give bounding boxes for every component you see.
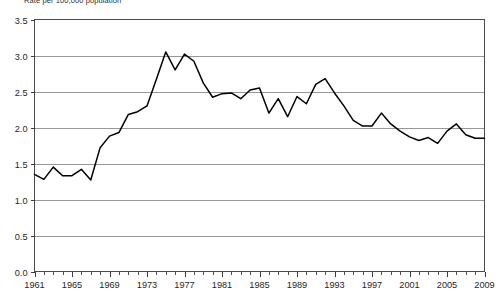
data-series-group bbox=[35, 52, 485, 180]
x-axis-label: 2005 bbox=[437, 280, 457, 290]
series-line-rate bbox=[35, 52, 485, 180]
x-axis-label: 1993 bbox=[324, 280, 344, 290]
y-axis-label: 1.5 bbox=[15, 160, 28, 170]
y-axis-label: 2.0 bbox=[15, 124, 28, 134]
y-axis-label: 0.0 bbox=[15, 268, 28, 278]
line-chart: Rate per 100,000 population 0.00.51.01.5… bbox=[0, 0, 496, 299]
x-axis-label: 1981 bbox=[212, 280, 232, 290]
x-axis-label: 1973 bbox=[137, 280, 157, 290]
x-axis-label: 1969 bbox=[99, 280, 119, 290]
x-axis-label: 2001 bbox=[399, 280, 419, 290]
x-axis-label: 1985 bbox=[249, 280, 269, 290]
y-axis-label: 0.5 bbox=[15, 232, 28, 242]
y-axis-ticks bbox=[31, 21, 35, 273]
x-axis-ticks bbox=[36, 272, 486, 277]
y-axis-label: 3.5 bbox=[15, 16, 28, 26]
x-axis-label: 1977 bbox=[174, 280, 194, 290]
chart-plot-area: 0.00.51.01.52.02.53.03.5 196119651969197… bbox=[0, 0, 496, 299]
x-axis-label: 2009 bbox=[474, 280, 494, 290]
y-axis-label: 1.0 bbox=[15, 196, 28, 206]
y-axis-label: 2.5 bbox=[15, 88, 28, 98]
x-axis-labels: 1961196519691973197719811985198919931997… bbox=[24, 280, 494, 290]
x-axis-label: 1997 bbox=[362, 280, 382, 290]
x-axis-label: 1965 bbox=[62, 280, 82, 290]
y-axis-label: 3.0 bbox=[15, 52, 28, 62]
x-axis-label: 1989 bbox=[287, 280, 307, 290]
y-axis-labels: 0.00.51.01.52.02.53.03.5 bbox=[15, 16, 28, 278]
x-axis-label: 1961 bbox=[24, 280, 44, 290]
